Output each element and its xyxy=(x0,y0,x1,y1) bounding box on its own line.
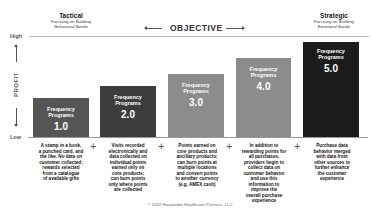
bar-4-version: 4.0 xyxy=(257,81,271,92)
axis-high-label: High xyxy=(10,33,22,39)
header-tactical: Tactical Focusing on Building Behavioral… xyxy=(40,12,102,29)
desc-2-line: are collected xyxy=(96,187,160,193)
right-arrow-head-icon xyxy=(242,26,245,30)
bar-1-version: 1.0 xyxy=(54,121,68,132)
down-arrow-icon xyxy=(16,108,17,124)
left-arrow-icon xyxy=(145,28,162,29)
right-arrow-icon xyxy=(226,28,243,29)
bar-2-line2: Programs xyxy=(115,100,141,106)
description-2: Visits recorded electronically and data … xyxy=(96,143,160,193)
up-arrow-icon xyxy=(16,46,17,62)
down-arrow-head-icon xyxy=(14,124,18,127)
bar-2-version: 2.0 xyxy=(121,109,135,120)
tactical-subtitle-2: Behavioral Bonds xyxy=(40,24,102,29)
bar-5-version: 5.0 xyxy=(324,63,338,74)
left-arrow-head-icon xyxy=(144,26,147,30)
description-5: Purchase data behavior merged with data … xyxy=(301,143,363,182)
header-strategic: Strategic Focusing on Building Emotional… xyxy=(300,12,368,29)
bar-1-line2: Programs xyxy=(48,112,74,118)
desc-1-line: of available gifts xyxy=(28,176,94,182)
bar-frequency-programs-3: FrequencyPrograms 3.0 xyxy=(168,74,224,137)
description-3: Points earned on core products and ancil… xyxy=(164,143,230,187)
high-line xyxy=(29,36,369,37)
bar-frequency-programs-2: FrequencyPrograms 2.0 xyxy=(100,86,156,137)
up-arrow-head-icon xyxy=(14,44,18,47)
profit-axis-label: PROFIT xyxy=(13,73,19,97)
description-4: In addition to rewarding points for all … xyxy=(231,143,297,204)
bar-frequency-programs-4: FrequencyPrograms 4.0 xyxy=(236,58,291,137)
objective-label: OBJECTIVE xyxy=(170,23,223,33)
bar-5-line2: Programs xyxy=(318,54,344,60)
strategic-title: Strategic xyxy=(300,12,368,19)
strategic-subtitle-2: Emotional Bonds xyxy=(300,24,368,29)
axis-low-label: Low xyxy=(10,134,21,140)
plus-icon: + xyxy=(294,140,300,152)
tactical-title: Tactical xyxy=(40,12,102,19)
desc-3-line: (e.g. AMEX cash) xyxy=(164,182,230,188)
bar-3-line2: Programs xyxy=(183,88,209,94)
bar-3-version: 3.0 xyxy=(189,97,203,108)
description-1: A stamp in a book, a punched card, and t… xyxy=(28,143,94,182)
copyright-text: © 2022 Hospitable Healthcare Partners, L… xyxy=(90,202,290,207)
bar-frequency-programs-5: FrequencyPrograms 5.0 xyxy=(303,42,359,137)
bar-frequency-programs-1: FrequencyPrograms 1.0 xyxy=(33,98,89,137)
baseline xyxy=(28,137,368,138)
desc-5-line: experience xyxy=(301,176,363,182)
bar-4-line2: Programs xyxy=(251,72,277,78)
